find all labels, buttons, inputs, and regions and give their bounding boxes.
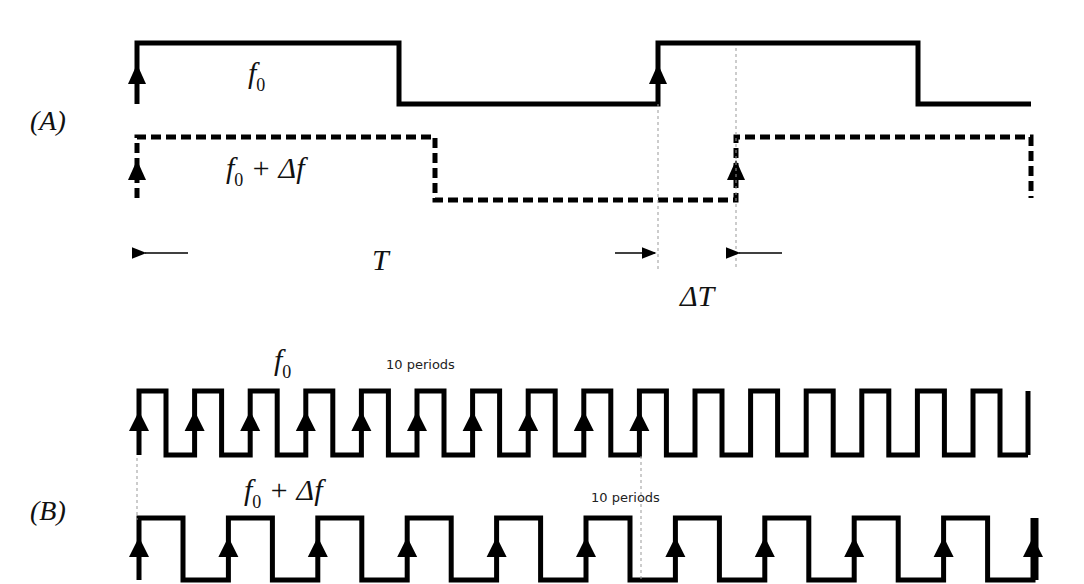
rising-edge-arrow-icon — [755, 537, 775, 557]
rising-edge-arrow-icon — [129, 411, 149, 431]
rising-edge-arrow-icon — [518, 411, 538, 431]
periods-note-f0-plus-df: 10 periods — [591, 490, 660, 505]
rising-edge-arrow-icon — [185, 411, 205, 431]
rising-edge-arrow-icon — [397, 537, 417, 557]
rising-edge-arrow-icon — [308, 537, 328, 557]
rising-edge-arrow-icon — [351, 411, 371, 431]
offset-label: ΔT — [679, 279, 717, 312]
rising-edge-arrow-icon — [218, 537, 238, 557]
rising-edge-arrow-icon — [407, 411, 427, 431]
rising-edge-arrow-icon — [934, 537, 954, 557]
rising-edge-arrow-icon — [574, 411, 594, 431]
rising-edge-arrow-icon — [844, 537, 864, 557]
signal-f0-label-b: f0 — [274, 343, 291, 382]
rising-edge-arrow-icon — [129, 537, 149, 557]
signal-f0-plus-df-label-b: f0 + Δf — [244, 473, 326, 512]
rising-edge-arrow-icon — [1023, 537, 1043, 557]
signal-f0-label-a: f0 — [248, 56, 265, 95]
signal-f0-plus-df-label-a: f0 + Δf — [226, 151, 308, 190]
signal-f0-waveform-b — [129, 391, 1028, 455]
rising-edge-arrow-icon — [463, 411, 483, 431]
panel-b-label: (B) — [30, 495, 66, 526]
rising-edge-arrow-icon — [576, 537, 596, 557]
panel-a-label: (A) — [30, 105, 66, 136]
rising-edge-arrow-icon — [487, 537, 507, 557]
rising-edge-arrow-icon — [665, 537, 685, 557]
signal-f0-plus-df-waveform-b — [129, 518, 1043, 580]
rising-edge-arrow-icon — [240, 411, 260, 431]
signal-f0-waveform-a — [137, 43, 1031, 104]
rising-edge-arrow-icon — [296, 411, 316, 431]
frequency-diagram: (A) f0 f0 + Δf T ΔT (B) f0 10 periods f0… — [0, 0, 1084, 584]
periods-note-f0: 10 periods — [386, 357, 455, 372]
rising-edge-arrow-icon — [629, 411, 649, 431]
period-label: T — [372, 243, 391, 276]
